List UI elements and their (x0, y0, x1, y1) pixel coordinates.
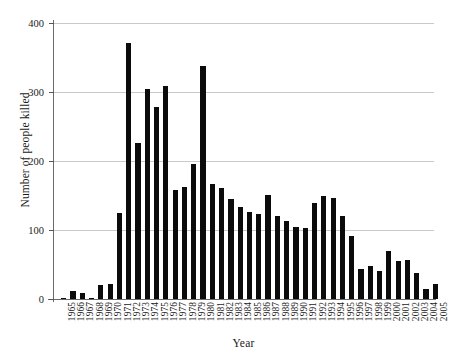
bar (108, 284, 113, 299)
y-axis-tick-label: 300 (12, 87, 44, 98)
bar (414, 273, 419, 299)
y-axis-tick-label: 0 (12, 294, 44, 305)
bar (433, 284, 438, 299)
bar (265, 195, 270, 299)
bar (256, 214, 261, 299)
bar (219, 188, 224, 299)
y-axis-tick-label: 100 (12, 225, 44, 236)
bar (405, 260, 410, 299)
bar (191, 164, 196, 299)
bar (321, 196, 326, 300)
bar-series (53, 23, 434, 299)
bar (247, 212, 252, 299)
bar (423, 289, 428, 299)
bar (396, 261, 401, 299)
bar (126, 43, 131, 299)
bar (210, 184, 215, 299)
bar (228, 199, 233, 299)
bar (200, 66, 205, 299)
bar (358, 269, 363, 299)
bar (238, 207, 243, 299)
bar (340, 216, 345, 299)
bar (182, 187, 187, 299)
bar (173, 190, 178, 299)
bar (117, 213, 122, 299)
bar (163, 86, 168, 299)
bar (312, 203, 317, 299)
bar (61, 298, 66, 299)
bar (145, 89, 150, 299)
bar (331, 198, 336, 299)
bar (89, 298, 94, 299)
y-axis-tick-label: 400 (12, 18, 44, 29)
y-axis-tick-labels: 0100200300400 (0, 0, 52, 358)
bar (135, 143, 140, 299)
bar-chart: Number of people killed 0100200300400 19… (0, 0, 466, 358)
x-axis-tick-labels: 1965196619671968196919701971197219731974… (53, 302, 434, 336)
bar (377, 271, 382, 299)
bar (80, 293, 85, 299)
bar (293, 227, 298, 299)
bar (303, 228, 308, 299)
bar (70, 291, 75, 299)
x-axis-line (48, 299, 436, 300)
x-axis-title: Year (53, 337, 434, 349)
bar (386, 251, 391, 299)
bar (275, 216, 280, 299)
bar (154, 107, 159, 300)
bar (368, 266, 373, 299)
x-axis-tick-label: 2005 (440, 302, 449, 321)
y-axis-tick-label: 200 (12, 156, 44, 167)
bar (284, 221, 289, 299)
bar (349, 236, 354, 299)
plot-area (53, 23, 434, 299)
bar (98, 285, 103, 299)
